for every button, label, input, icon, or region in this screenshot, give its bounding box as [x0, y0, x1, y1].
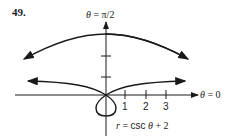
x-tick-label-3: 3: [163, 101, 169, 112]
equation-label: r = csc θ + 2: [116, 120, 169, 131]
x-tick-label-2: 2: [143, 101, 149, 112]
polar-graph: [0, 0, 237, 136]
top-axis-label: θ = π/2: [86, 9, 114, 20]
x-tick-label-1: 1: [122, 101, 128, 112]
right-axis-label: θ = 0: [200, 89, 221, 100]
left-inner-curve: [28, 81, 106, 95]
